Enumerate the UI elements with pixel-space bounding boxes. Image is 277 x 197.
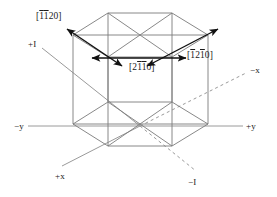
axis-label-plus-y: +y: [246, 122, 256, 131]
bracket-close: ]: [210, 50, 213, 60]
axis-minus-I-line: [140, 126, 196, 171]
axis-label-plus-x: +x: [55, 172, 65, 181]
diagram-canvas: +I −x −y +y +x −I [1120] [2110] [1210]: [0, 0, 277, 197]
direction-label-2110: [2110]: [129, 63, 155, 73]
hexagonal-prism-drawing: [0, 0, 277, 197]
axis-minus-x-line: [140, 73, 246, 126]
axis-label-minus-I: −I: [188, 178, 196, 187]
axis-label-plus-I: +I: [28, 40, 36, 49]
axis-label-minus-x: −x: [250, 66, 260, 75]
bracket-close: ]: [151, 62, 154, 72]
bottom-hexagon-diagonals: [73, 102, 208, 146]
direction-label-1210: [1210]: [187, 51, 213, 61]
bracket-close: ]: [58, 11, 61, 21]
axis-label-minus-y: −y: [14, 122, 24, 131]
direction-label-1120: [1120]: [36, 12, 62, 22]
